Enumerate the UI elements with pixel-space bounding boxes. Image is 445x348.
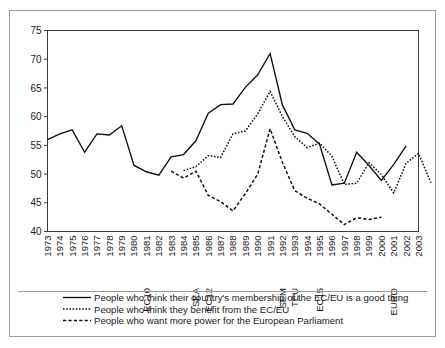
x-tick-label-1985: 1985 — [190, 236, 201, 257]
x-tick-label-1983: 1983 — [166, 236, 177, 257]
x-tick-label-2003: 2003 — [413, 236, 424, 257]
x-tick-label-1999: 1999 — [363, 236, 374, 257]
legend-label-2: People who want more power for the Europ… — [94, 315, 343, 326]
series-line-1 — [184, 91, 431, 193]
x-tick-label-1991: 1991 — [265, 236, 276, 257]
x-tick-label-1986: 1986 — [203, 236, 214, 257]
x-tick-label-1987: 1987 — [215, 236, 226, 257]
x-tick-label-2002: 2002 — [401, 236, 412, 257]
x-tick-label-1980: 1980 — [128, 236, 139, 257]
y-tick-label-50: 50 — [30, 169, 42, 180]
x-tick-label-1975: 1975 — [67, 236, 78, 257]
x-tick-label-1995: 1995 — [314, 236, 325, 257]
y-tick-label-75: 75 — [30, 25, 42, 36]
x-tick-label-1976: 1976 — [79, 236, 90, 257]
line-chart: 4045505560657075 19731974197519761977197… — [0, 0, 445, 348]
series-line-0 — [48, 53, 407, 185]
y-tick-label-40: 40 — [30, 226, 42, 237]
y-tick-label-55: 55 — [30, 140, 42, 151]
x-axis-labels: 1973197419751976197719781979198019811982… — [42, 236, 424, 257]
x-tick-label-1973: 1973 — [42, 236, 53, 257]
x-tick-label-1993: 1993 — [289, 236, 300, 257]
x-tick-label-1994: 1994 — [302, 236, 313, 257]
x-tick-label-1982: 1982 — [153, 236, 164, 257]
y-tick-label-60: 60 — [30, 111, 42, 122]
y-tick-label-45: 45 — [30, 197, 42, 208]
x-tick-label-1984: 1984 — [178, 236, 189, 257]
x-tick-label-2001: 2001 — [388, 236, 399, 257]
x-tick-label-1981: 1981 — [141, 236, 152, 257]
y-axis-ticks — [44, 31, 48, 232]
x-tick-label-1977: 1977 — [91, 236, 102, 257]
x-tick-label-1997: 1997 — [339, 236, 350, 257]
series-line-2 — [171, 129, 381, 225]
x-tick-label-1990: 1990 — [252, 236, 263, 257]
y-axis-labels: 4045505560657075 — [30, 25, 42, 237]
x-tick-label-1998: 1998 — [351, 236, 362, 257]
x-tick-label-1979: 1979 — [116, 236, 127, 257]
x-tick-label-1992: 1992 — [277, 236, 288, 257]
y-tick-label-70: 70 — [30, 54, 42, 65]
y-tick-label-65: 65 — [30, 83, 42, 94]
legend-label-0: People who think their country's members… — [94, 292, 408, 303]
x-tick-label-1996: 1996 — [326, 236, 337, 257]
chart-legend: People who think their country's members… — [18, 292, 427, 327]
x-tick-label-2000: 2000 — [376, 236, 387, 257]
plot-area-frame — [48, 31, 419, 232]
legend-label-1: People who think they benefit from the E… — [94, 304, 289, 315]
chart-figure: 4045505560657075 19731974197519761977197… — [0, 0, 445, 348]
x-tick-label-1974: 1974 — [54, 236, 65, 257]
x-tick-label-1978: 1978 — [104, 236, 115, 257]
x-tick-label-1988: 1988 — [227, 236, 238, 257]
x-tick-label-1989: 1989 — [240, 236, 251, 257]
data-series-group — [48, 53, 431, 224]
